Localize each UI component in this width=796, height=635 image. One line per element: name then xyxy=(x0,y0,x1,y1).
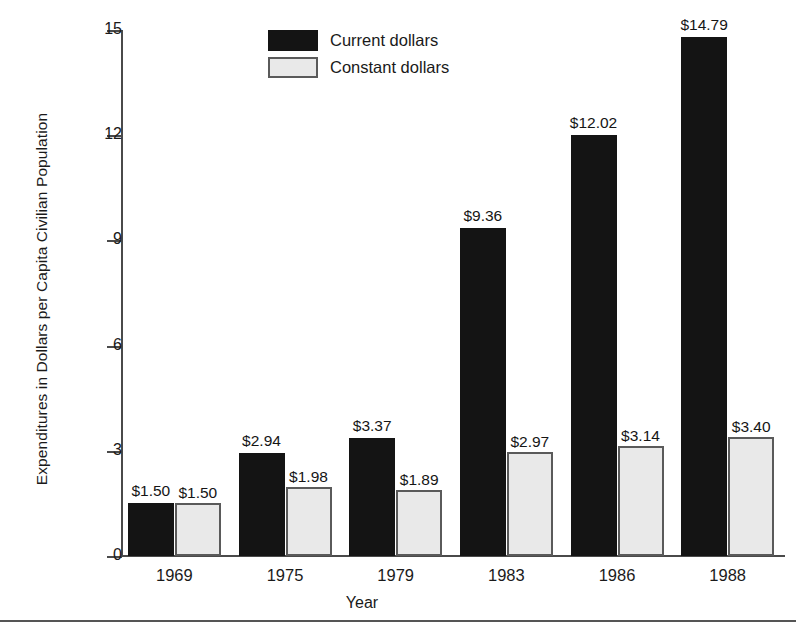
bar-group: $14.79$3.40 xyxy=(681,30,774,556)
bottom-divider xyxy=(0,620,796,622)
bar-value-label: $2.94 xyxy=(242,432,281,450)
legend: Current dollarsConstant dollars xyxy=(268,27,449,81)
bar-value-label: $1.50 xyxy=(131,482,170,500)
x-axis-tick-label: 1969 xyxy=(128,566,221,585)
bar-constant-dollars[interactable]: $3.14 xyxy=(618,446,664,556)
bar-constant-dollars[interactable]: $1.89 xyxy=(396,490,442,556)
legend-item[interactable]: Current dollars xyxy=(268,27,449,54)
y-axis-tick-label: 15 xyxy=(78,20,122,38)
bar-value-label: $3.14 xyxy=(621,427,660,445)
bar-value-label: $1.89 xyxy=(400,471,439,489)
bar-current-dollars[interactable]: $14.79 xyxy=(681,37,727,556)
bar-current-dollars[interactable]: $12.02 xyxy=(571,135,617,557)
bar-current-dollars[interactable]: $1.50 xyxy=(128,503,174,556)
x-axis-tick-label: 1983 xyxy=(460,566,553,585)
y-axis-title: Expenditures in Dollars per Capita Civil… xyxy=(33,49,51,549)
x-axis-tick-label: 1986 xyxy=(571,566,664,585)
bar-value-label: $3.37 xyxy=(353,417,392,435)
legend-label: Current dollars xyxy=(330,31,438,50)
bar-value-label: $1.50 xyxy=(178,484,217,502)
bar-current-dollars[interactable]: $2.94 xyxy=(239,453,285,556)
y-axis-tick-label: 9 xyxy=(78,230,122,248)
legend-item[interactable]: Constant dollars xyxy=(268,54,449,81)
y-axis-tick-label: 12 xyxy=(78,125,122,143)
bar-group: $2.94$1.98 xyxy=(239,30,332,556)
bar-constant-dollars[interactable]: $1.50 xyxy=(175,503,221,556)
y-axis-tick-label: 3 xyxy=(78,441,122,459)
bar-group: $1.50$1.50 xyxy=(128,30,221,556)
bar-current-dollars[interactable]: $3.37 xyxy=(349,438,395,556)
legend-swatch-current-icon xyxy=(268,30,318,51)
bar-group: $3.37$1.89 xyxy=(349,30,442,556)
bar-chart: Expenditures in Dollars per Capita Civil… xyxy=(0,0,796,635)
bar-constant-dollars[interactable]: $1.98 xyxy=(286,487,332,556)
bar-constant-dollars[interactable]: $3.40 xyxy=(728,437,774,556)
bar-value-label: $14.79 xyxy=(680,16,727,34)
bar-value-label: $2.97 xyxy=(510,433,549,451)
bar-current-dollars[interactable]: $9.36 xyxy=(460,228,506,556)
bar-group: $9.36$2.97 xyxy=(460,30,553,556)
legend-label: Constant dollars xyxy=(330,58,449,77)
bar-value-label: $3.40 xyxy=(732,418,771,436)
bar-value-label: $12.02 xyxy=(570,114,617,132)
bar-value-label: $1.98 xyxy=(289,468,328,486)
y-axis-tick-label: 6 xyxy=(78,336,122,354)
bar-group: $12.02$3.14 xyxy=(571,30,664,556)
legend-swatch-constant-icon xyxy=(268,57,318,78)
bar-value-label: $9.36 xyxy=(463,207,502,225)
bar-constant-dollars[interactable]: $2.97 xyxy=(507,452,553,556)
x-axis-title: Year xyxy=(0,594,796,612)
y-axis-tick-label: 0 xyxy=(78,546,122,564)
plot-area: $1.50$1.50$2.94$1.98$3.37$1.89$9.36$2.97… xyxy=(121,30,785,556)
x-axis-title-text: Year xyxy=(346,594,378,611)
x-axis-tick-label: 1975 xyxy=(239,566,332,585)
x-axis-tick-label: 1988 xyxy=(681,566,774,585)
x-axis-tick-label: 1979 xyxy=(349,566,442,585)
